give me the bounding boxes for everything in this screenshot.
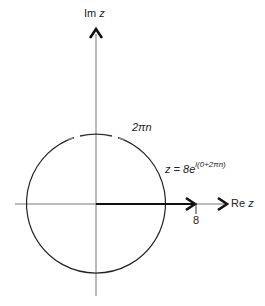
- equation-label: z = 8ei(0+2πn): [165, 163, 226, 175]
- angle-label: 2πn: [132, 121, 152, 133]
- real-axis-label: Re z: [231, 197, 254, 209]
- equation-main: z = 8e: [165, 163, 195, 175]
- tick-label-8: 8: [193, 214, 199, 226]
- real-axis-label-prefix: Re: [231, 197, 248, 209]
- imag-axis-label-prefix: Im: [84, 7, 99, 19]
- real-axis-label-var: z: [248, 197, 254, 209]
- equation-exponent: i(0+2πn): [195, 160, 225, 169]
- imag-axis-label-var: z: [99, 7, 105, 19]
- circle-dash-left: [68, 138, 73, 140]
- complex-plane-diagram: [0, 0, 265, 306]
- imag-axis-label: Im z: [84, 7, 105, 19]
- circle-dash-right: [119, 138, 124, 140]
